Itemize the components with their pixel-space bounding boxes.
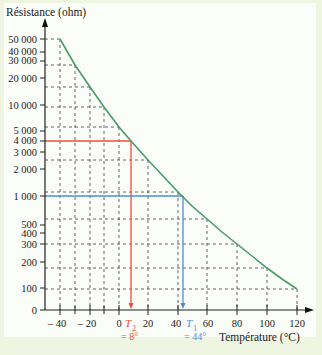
svg-text:2 000: 2 000 [13, 164, 37, 175]
vertical-gridlines [60, 39, 297, 310]
svg-text:0: 0 [32, 305, 37, 316]
x-tick-labels: – 40 – 20 0 20 40 60 80 100 120 [47, 318, 305, 329]
svg-text:120: 120 [289, 318, 305, 329]
svg-text:= 8°: = 8° [121, 331, 138, 342]
t1-guide-lines [45, 196, 183, 306]
svg-text:T: T [186, 317, 193, 329]
svg-text:– 40: – 40 [47, 318, 66, 329]
svg-text:10 000: 10 000 [8, 100, 37, 111]
svg-text:– 20: – 20 [77, 318, 96, 329]
t2-guide-lines [45, 141, 131, 306]
svg-text:100: 100 [259, 318, 275, 329]
svg-text:40: 40 [171, 318, 182, 329]
chart-svg: Résistance (ohm) [0, 0, 322, 355]
y-axis-title: Résistance (ohm) [6, 6, 86, 19]
y-ticks [40, 39, 45, 288]
x-axis-arrow-icon [305, 307, 314, 313]
svg-text:0: 0 [116, 318, 121, 329]
svg-text:= 44°: = 44° [184, 331, 206, 342]
svg-text:80: 80 [232, 318, 243, 329]
svg-text:300: 300 [21, 239, 37, 250]
resistance-curve [60, 39, 297, 289]
svg-text:20: 20 [143, 318, 154, 329]
x-axis-title: Température (°C) [219, 331, 300, 344]
svg-text:30 000: 30 000 [8, 55, 37, 66]
svg-text:400: 400 [21, 228, 37, 239]
svg-text:T: T [125, 317, 132, 329]
svg-text:20 000: 20 000 [8, 73, 37, 84]
t2-arrow-icon [129, 303, 134, 309]
svg-text:1 000: 1 000 [13, 191, 37, 202]
t2-annotation: T 2 = 8° [121, 317, 138, 342]
svg-text:100: 100 [21, 283, 37, 294]
svg-text:4 000: 4 000 [13, 135, 37, 146]
svg-text:50 000: 50 000 [8, 34, 37, 45]
svg-text:60: 60 [203, 318, 214, 329]
t1-arrow-icon [181, 303, 186, 309]
svg-text:200: 200 [21, 257, 37, 268]
svg-text:3 000: 3 000 [13, 147, 37, 158]
y-tick-labels: 50 000 40 000 30 000 20 000 10 000 5 000… [8, 34, 37, 316]
y-axis-arrow-icon [42, 18, 48, 27]
